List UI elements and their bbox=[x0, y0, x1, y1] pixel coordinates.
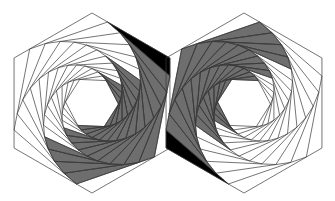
right-hexagon-shading bbox=[166, 22, 291, 184]
left-hexagon-shading bbox=[45, 22, 170, 184]
left-hexagon-whirl bbox=[14, 13, 170, 193]
right-hexagon-whirl bbox=[166, 13, 322, 193]
whirl-hexagon-figure bbox=[0, 0, 335, 201]
